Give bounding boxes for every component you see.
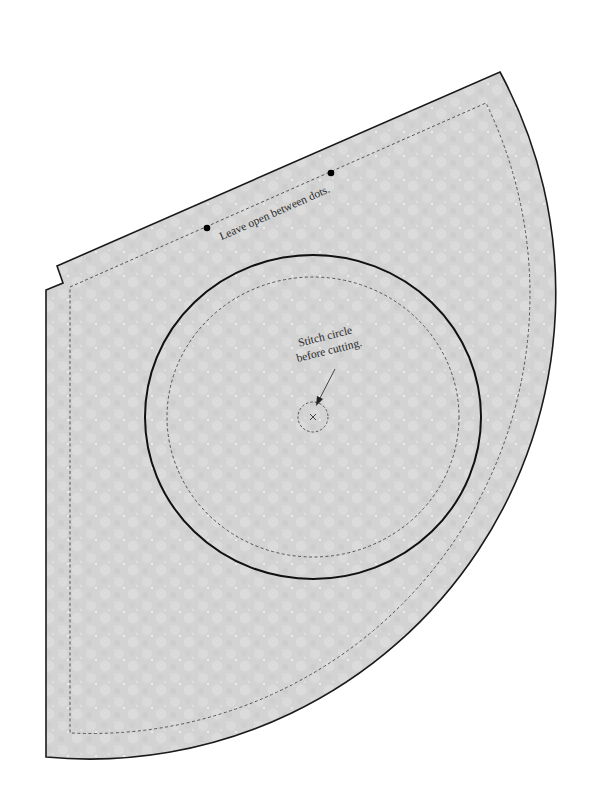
opening-dot-end [328, 170, 335, 177]
opening-dot-start [204, 225, 211, 232]
fabric-fill [46, 72, 556, 759]
cone-pattern-piece: Leave open between dots. Stitch circle b… [0, 0, 592, 800]
